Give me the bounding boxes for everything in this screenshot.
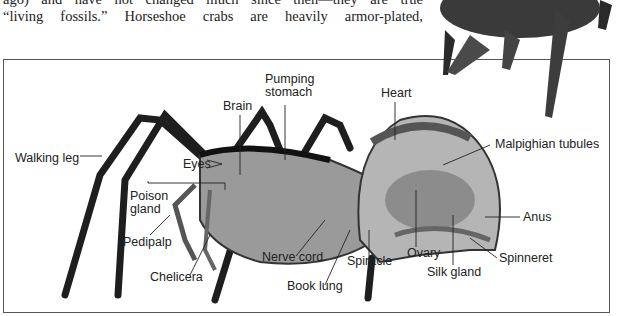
label-anus: Anus (523, 211, 552, 224)
spider-photo (440, 0, 612, 118)
label-chelicera: Chelicera (150, 271, 203, 284)
label-ovary: Ovary (407, 247, 440, 260)
cephalothorax (200, 149, 375, 264)
label-heart: Heart (381, 87, 412, 100)
spider-anatomy-illustration (0, 0, 618, 316)
label-pumping-stomach: Pumping stomach (265, 73, 314, 99)
label-eyes: Eyes (183, 158, 211, 171)
label-spinneret: Spinneret (499, 252, 553, 265)
label-poison-gland: Poison gland (130, 190, 168, 216)
label-spiracle: Spiracle (347, 255, 392, 268)
label-brain: Brain (223, 100, 252, 113)
label-book-lung: Book lung (287, 280, 343, 293)
label-malpighian-tubules: Malpighian tubules (495, 138, 599, 151)
label-nerve-cord: Nerve cord (262, 251, 323, 264)
label-pedipalp: Pedipalp (123, 236, 172, 249)
label-silk-gland: Silk gland (427, 266, 481, 279)
label-walking-leg: Walking leg (15, 152, 79, 165)
